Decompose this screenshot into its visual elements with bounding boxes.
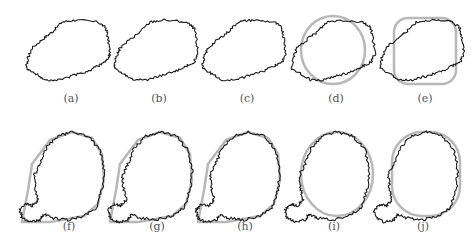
subfigure-caption: (d) <box>291 92 381 105</box>
contour-plot <box>194 10 294 90</box>
contour-plot <box>18 10 118 90</box>
contour-plot <box>98 130 198 230</box>
shape-contour <box>202 19 286 80</box>
shape-contour <box>26 20 111 81</box>
subfigure-c <box>194 10 284 135</box>
shape-contour <box>108 131 193 223</box>
shape-contour <box>373 131 458 223</box>
contour-plot <box>10 130 110 230</box>
subfigure-caption: (a) <box>26 92 116 105</box>
fitted-circle <box>301 16 365 84</box>
subfigure-caption: (j) <box>378 220 468 233</box>
contour-plot <box>186 130 286 230</box>
contour-plot <box>106 10 206 90</box>
shape-contour <box>380 19 465 81</box>
shape-contour <box>291 20 376 81</box>
subfigure-caption: (c) <box>202 92 292 105</box>
subfigure-e <box>372 10 462 135</box>
subfigure-b <box>106 10 196 135</box>
subfigure-caption: (b) <box>114 92 204 105</box>
contour-plot <box>283 10 383 90</box>
contour-plot <box>275 130 375 230</box>
shape-contour <box>114 19 198 81</box>
subfigure-caption: (e) <box>380 92 470 105</box>
contour-plot <box>372 10 472 90</box>
fitted-rounded-rectangle <box>394 18 456 84</box>
contour-plot <box>364 130 464 230</box>
subfigure-a <box>18 10 108 135</box>
subfigure-d <box>283 10 373 135</box>
